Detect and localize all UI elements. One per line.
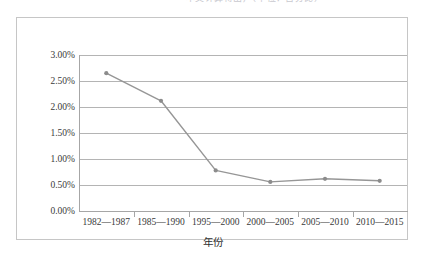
xtick-label-1: 1985—1990: [137, 217, 185, 227]
data-point: [104, 71, 108, 75]
chart-figure-frame: 3.00% 2.50% 2.00% 1.50% 1.00% 0.50% 0.00…: [16, 17, 408, 240]
caption-strip: 本文计算得出，（单位：百分比）: [0, 0, 422, 11]
caption-text: 本文计算得出，（单位：百分比）: [186, 0, 323, 4]
xtick-label-0: 1982—1987: [83, 217, 131, 227]
data-point: [159, 99, 163, 103]
x-axis-title: 年份: [17, 234, 409, 249]
line-series: [17, 18, 409, 241]
data-point: [323, 177, 327, 181]
xtick-label-3: 2000—2005: [247, 217, 295, 227]
xtick-label-2: 1995—2000: [192, 217, 240, 227]
data-point: [214, 168, 218, 172]
series-line: [106, 73, 379, 182]
data-point: [268, 180, 272, 184]
xtick-label-5: 2010—2015: [356, 217, 404, 227]
xtick-label-4: 2005—2010: [301, 217, 349, 227]
data-point: [378, 179, 382, 183]
